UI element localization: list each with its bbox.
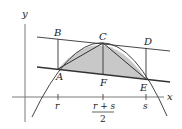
point-label-C: C xyxy=(99,31,107,42)
tick-label-mid-denominator: 2 xyxy=(100,114,106,124)
tick-label-mid-numerator: r + s xyxy=(93,101,116,111)
point-label-D: D xyxy=(143,36,152,47)
tick-label-s: s xyxy=(143,101,148,111)
point-label-B: B xyxy=(53,27,61,38)
parabola-diagram: y x r r + s 2 s B C D A F E xyxy=(0,0,182,129)
point-label-E: E xyxy=(139,82,148,93)
tick-label-r: r xyxy=(55,101,60,111)
point-label-F: F xyxy=(99,77,108,88)
y-axis-label: y xyxy=(21,8,28,19)
x-axis-label: x xyxy=(167,91,173,102)
point-label-A: A xyxy=(55,71,63,82)
